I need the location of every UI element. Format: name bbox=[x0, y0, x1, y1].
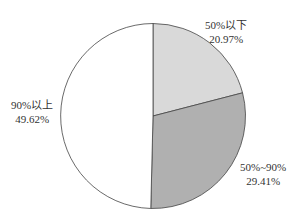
label-above-90: 90%以上 49.62% bbox=[11, 98, 53, 126]
label-below-50-value: 20.97% bbox=[205, 32, 247, 46]
label-50-to-90-name: 50%~90% bbox=[240, 160, 286, 174]
label-above-90-value: 49.62% bbox=[11, 112, 53, 126]
label-50-to-90-value: 29.41% bbox=[240, 174, 286, 188]
label-below-50-name: 50%以下 bbox=[205, 18, 247, 32]
label-above-90-name: 90%以上 bbox=[11, 98, 53, 112]
label-50-to-90: 50%~90% 29.41% bbox=[240, 160, 286, 188]
label-below-50: 50%以下 20.97% bbox=[205, 18, 247, 46]
pie-slice-2 bbox=[61, 24, 153, 209]
